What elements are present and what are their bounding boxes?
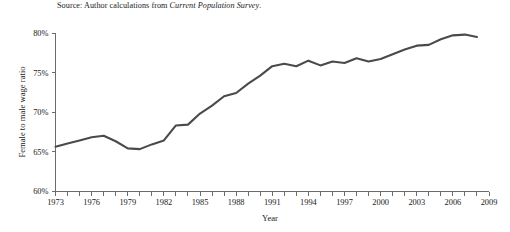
x-axis-tick-label: 1979 xyxy=(119,198,136,207)
x-axis-tick-label: 1997 xyxy=(336,198,353,207)
x-axis-tick-label: 2006 xyxy=(445,198,462,207)
chart-figure: Source: Author calculations from Current… xyxy=(0,0,510,232)
x-axis-tick-label: 1994 xyxy=(300,198,318,207)
y-axis-tick-label: 70% xyxy=(33,108,48,117)
y-axis-tick-label: 65% xyxy=(33,148,48,157)
y-axis-tick-labels: 80%75%70%65%60% xyxy=(33,29,48,196)
y-axis-tick-label: 60% xyxy=(33,187,48,196)
x-axis-tick-label: 1985 xyxy=(192,198,209,207)
x-axis-tick-labels: 1973197619791982198519881991199419972000… xyxy=(47,198,497,207)
y-axis-ticks xyxy=(52,33,56,191)
y-axis-tick-label: 75% xyxy=(33,69,48,78)
x-axis-title: Year xyxy=(262,213,278,223)
x-axis-tick-label: 1973 xyxy=(47,198,64,207)
x-axis-tick-label: 1976 xyxy=(83,198,100,207)
line-chart-plot: 80%75%70%65%60% 197319761979198219851988… xyxy=(0,0,510,232)
x-axis-tick-label: 2009 xyxy=(481,198,498,207)
y-axis-title: Female to male wage ratio xyxy=(17,66,27,157)
x-axis-tick-label: 1991 xyxy=(264,198,281,207)
x-axis-tick-label: 2000 xyxy=(372,198,389,207)
x-axis-tick-label: 1988 xyxy=(228,198,245,207)
y-axis-tick-label: 80% xyxy=(33,29,48,38)
wage-ratio-series-line xyxy=(56,35,477,150)
x-axis-ticks xyxy=(56,192,490,196)
x-axis-tick-label: 1982 xyxy=(156,198,173,207)
x-axis-tick-label: 2003 xyxy=(408,198,425,207)
